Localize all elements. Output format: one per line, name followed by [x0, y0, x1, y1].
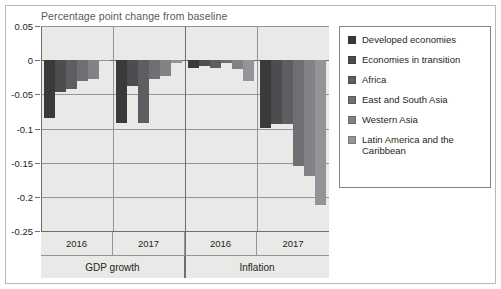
legend-item-label: Developed economies — [362, 34, 456, 45]
x-axis-year-label: 2016 — [41, 232, 113, 255]
legend-swatch-icon — [348, 136, 356, 144]
y-axis-tick — [35, 163, 40, 164]
legend-swatch-icon — [348, 116, 356, 124]
y-axis-label: -0.25 — [11, 226, 33, 237]
bar — [149, 60, 160, 79]
legend-item[interactable]: Africa — [340, 74, 490, 85]
bar — [293, 60, 304, 166]
x-axis-year-label: 2017 — [257, 232, 329, 255]
y-axis-label: 0 — [28, 55, 33, 66]
group-separator — [185, 26, 186, 231]
y-axis-tick — [35, 197, 40, 198]
bar — [221, 60, 232, 63]
y-axis-labels: 0.050-0.05-0.1-0.15-0.2-0.25 — [0, 0, 33, 289]
bar — [99, 60, 110, 61]
x-axis-group-label: Inflation — [185, 255, 329, 278]
bar — [66, 60, 77, 89]
legend-item-label: Africa — [362, 74, 386, 85]
bar — [243, 60, 254, 81]
bar — [88, 60, 99, 79]
bar — [171, 60, 182, 63]
legend-item[interactable]: Developed economies — [340, 34, 490, 45]
legend-swatch-icon — [348, 76, 356, 84]
bar — [188, 60, 199, 68]
legend-swatch-icon — [348, 96, 356, 104]
group-separator — [113, 26, 114, 231]
bar — [304, 60, 315, 176]
x-axis-year-label: 2017 — [113, 232, 185, 255]
legend-item-label: Latin America and the Caribbean — [362, 134, 484, 156]
legend-item[interactable]: Western Asia — [340, 114, 490, 125]
bar — [160, 60, 171, 76]
bar — [260, 60, 271, 128]
x-axis-band: 2016201720162017GDP growthInflation — [41, 231, 329, 278]
bar — [199, 60, 210, 65]
bar — [116, 60, 127, 123]
legend-item-label: East and South Asia — [362, 94, 448, 105]
bar — [55, 60, 66, 91]
y-axis-label: -0.15 — [11, 157, 33, 168]
legend-item[interactable]: Latin America and the Caribbean — [340, 134, 490, 156]
legend-item[interactable]: Economies in transition — [340, 54, 490, 65]
x-axis-year-label: 2016 — [185, 232, 257, 255]
bar — [271, 60, 282, 124]
bar — [138, 60, 149, 123]
y-axis-tick — [35, 94, 40, 95]
legend-item-label: Economies in transition — [362, 54, 460, 65]
bar — [282, 60, 293, 124]
chart-screenshot: Percentage point change from baseline 0.… — [0, 0, 501, 289]
bar — [127, 60, 138, 86]
y-axis-label: -0.05 — [11, 89, 33, 100]
x-axis-group-label: GDP growth — [41, 255, 185, 278]
bar — [315, 60, 326, 205]
bar — [232, 60, 243, 69]
y-axis-line — [41, 26, 42, 231]
y-axis-label: -0.2 — [17, 191, 33, 202]
legend-swatch-icon — [348, 56, 356, 64]
chart-legend: Developed economiesEconomies in transiti… — [339, 26, 491, 188]
legend-item[interactable]: East and South Asia — [340, 94, 490, 105]
bar — [44, 60, 55, 118]
y-axis-label: 0.05 — [15, 21, 34, 32]
y-axis-tick — [35, 231, 40, 232]
bar — [210, 60, 221, 68]
y-axis-label: -0.1 — [17, 123, 33, 134]
bar — [77, 60, 88, 81]
legend-swatch-icon — [348, 36, 356, 44]
y-axis-tick — [35, 129, 40, 130]
legend-item-label: Western Asia — [362, 114, 418, 125]
y-axis-tick — [35, 60, 40, 61]
plot-area — [41, 26, 329, 231]
group-separator — [257, 26, 258, 231]
chart-title: Percentage point change from baseline — [41, 10, 227, 22]
y-axis-tick — [35, 26, 40, 27]
